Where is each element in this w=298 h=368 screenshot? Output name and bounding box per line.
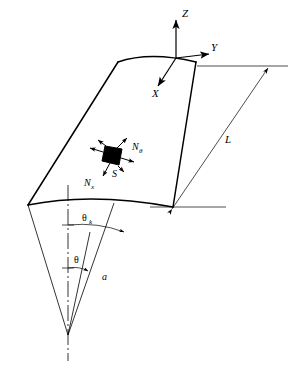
theta-label: θ	[74, 254, 79, 265]
theta-k-label: θ	[82, 212, 87, 223]
n-x-subscript: x	[90, 183, 95, 191]
stress-element	[102, 146, 122, 165]
theta-k-label-group: θ k	[82, 212, 93, 226]
z-axis-label: Z	[182, 7, 189, 19]
n-theta-subscript: θ	[139, 147, 143, 155]
n-theta-label-group: N θ	[131, 141, 143, 155]
y-axis-label: Y	[211, 41, 219, 53]
coordinate-axes	[158, 20, 209, 86]
shell-panel-outline	[28, 57, 196, 208]
stress-element-face	[102, 146, 122, 165]
x-axis-line	[158, 58, 176, 86]
right-generator-edge	[173, 62, 196, 207]
n-theta-arrow-right	[121, 158, 134, 162]
radius-label: a	[102, 271, 107, 282]
apex-line-theta	[68, 232, 90, 335]
n-theta-arrow-upper	[117, 138, 127, 148]
conical-shell-diagram: Z Y X N θ N x S	[0, 0, 298, 368]
x-axis-label: X	[151, 87, 160, 99]
shear-label: S	[112, 168, 117, 179]
theta-dimension	[62, 267, 88, 271]
bottom-arc-edge	[28, 199, 173, 207]
length-label: L	[224, 133, 231, 145]
diagram-canvas: Z Y X N θ N x S	[0, 0, 298, 368]
theta-k-arc	[68, 224, 124, 232]
length-dimension	[150, 66, 288, 209]
left-generator-edge	[28, 62, 118, 205]
n-x-arrow-left	[90, 148, 103, 152]
length-dimension-line	[172, 68, 268, 209]
y-axis-line	[176, 54, 209, 58]
apex-line-left	[28, 205, 68, 335]
n-x-label-group: N x	[83, 177, 95, 191]
n-x-arrow-lower	[103, 163, 110, 176]
theta-k-dimension	[62, 224, 124, 232]
shear-arrow-lower-right	[118, 166, 124, 172]
cone-apex-construction	[28, 203, 114, 335]
shear-arrow-upper-left	[98, 140, 106, 146]
